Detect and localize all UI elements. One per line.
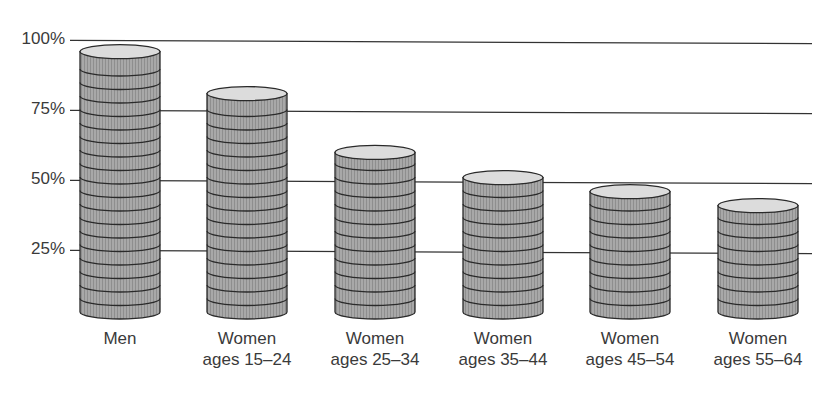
gridline-50 bbox=[70, 180, 812, 183]
bar-4 bbox=[590, 185, 670, 319]
y-tick-label: 100% bbox=[5, 29, 65, 49]
x-tick-label: Men bbox=[55, 328, 185, 349]
gridline-75 bbox=[70, 110, 812, 113]
x-tick-label: Womenages 25–34 bbox=[310, 328, 440, 370]
y-tick-label: 25% bbox=[5, 239, 65, 259]
gridline-25 bbox=[70, 250, 812, 253]
x-tick-label: Womenages 15–24 bbox=[182, 328, 312, 370]
cylinder-bar-chart: 25%50%75%100% MenWomenages 15–24Womenage… bbox=[0, 0, 829, 394]
bar-5 bbox=[718, 199, 798, 319]
gridline-100 bbox=[70, 40, 812, 43]
x-tick-label: Womenages 45–54 bbox=[565, 328, 695, 370]
y-tick-label: 50% bbox=[5, 169, 65, 189]
bar-0 bbox=[80, 45, 160, 319]
bar-1 bbox=[207, 87, 287, 319]
x-tick-label: Womenages 35–44 bbox=[438, 328, 568, 370]
y-tick-label: 75% bbox=[5, 99, 65, 119]
bar-3 bbox=[463, 171, 543, 319]
bar-2 bbox=[335, 145, 415, 319]
x-tick-label: Womenages 55–64 bbox=[693, 328, 823, 370]
